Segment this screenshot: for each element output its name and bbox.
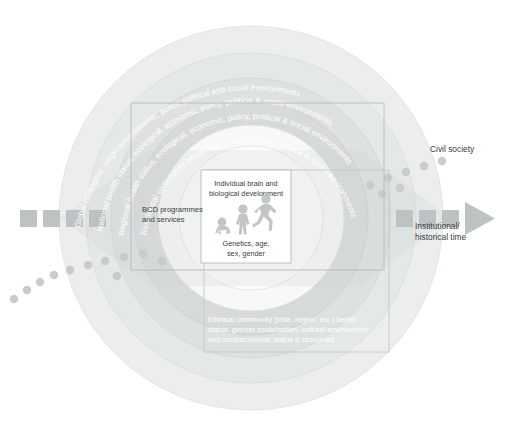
trail-dot	[438, 157, 446, 165]
trail-dot	[139, 250, 147, 258]
core-title-line1: Individual brain and	[214, 179, 277, 188]
institutional-time-line2: historical time	[415, 232, 467, 242]
trail-dot	[396, 184, 404, 192]
trail-dot	[402, 168, 410, 176]
trail-dot	[84, 261, 92, 269]
arrow-dash	[43, 210, 60, 227]
trail-dot	[366, 181, 374, 189]
trail-dot	[378, 190, 386, 198]
trail-dot	[36, 278, 44, 286]
trail-dot	[50, 271, 58, 279]
core-subtitle-line1: Genetics, age,	[222, 239, 269, 248]
core-title-line2: biological development	[209, 189, 283, 198]
bioecological-model-svg: Global ecological, corporate/economic, p…	[0, 0, 505, 436]
trail-dot	[66, 266, 74, 274]
institutional-time-label: Institutional/ historical time	[415, 221, 467, 242]
trail-dot	[384, 174, 392, 182]
arrow-dash	[396, 210, 413, 227]
trail-dot	[23, 286, 31, 294]
ethnic-label-line1: Ethnical community (tribe, region, etc.)…	[208, 315, 356, 324]
ethnic-label-line2: status, gender socialisation, cultural e…	[208, 325, 368, 334]
institutional-time-line1: Institutional/	[415, 221, 460, 231]
trail-dot	[420, 162, 428, 170]
core-subtitle-line2: sex, gender	[227, 249, 266, 258]
trail-dot	[120, 253, 128, 261]
trail-dot	[101, 257, 109, 265]
arrow-dash	[20, 210, 37, 227]
civil-society-label: Civil society	[430, 144, 475, 154]
arrow-head-icon	[465, 202, 495, 235]
ethnic-label-line3: and socioeconomic status & resources	[208, 335, 335, 344]
trail-dot	[113, 272, 121, 280]
bcd-label-line2: and services	[142, 215, 185, 224]
diagram-canvas: Global ecological, corporate/economic, p…	[0, 0, 505, 436]
trail-dot	[158, 257, 166, 265]
trail-dot	[10, 295, 18, 303]
bcd-label-line1: BCD programmes	[142, 205, 203, 214]
